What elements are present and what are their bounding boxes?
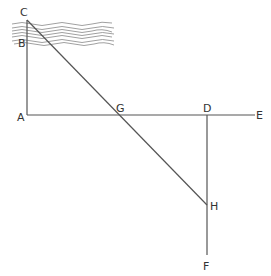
label-D: D: [203, 102, 211, 115]
label-G: G: [116, 102, 125, 115]
label-H: H: [210, 200, 218, 213]
label-C: C: [20, 6, 28, 19]
diagram: C B A G D E H F: [0, 0, 271, 276]
label-E: E: [256, 109, 263, 122]
label-A: A: [17, 111, 25, 124]
label-F: F: [203, 260, 209, 273]
label-B: B: [18, 37, 26, 50]
